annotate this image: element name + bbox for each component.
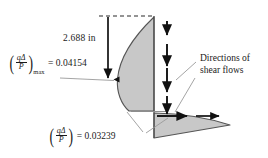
max-shear-marker (114, 77, 120, 83)
fraction-q-delta-over-p-flange: qΔ P (56, 127, 67, 145)
leader-line-max-shear (60, 78, 114, 81)
flange-shear-value: = 0.03239 (77, 131, 116, 141)
leader-line-directions-b (175, 78, 195, 112)
subscript-max: max (33, 68, 44, 75)
max-shear-label: ( qΔ P ) max = 0.04154 (8, 54, 87, 73)
fraction-q-delta-over-p-max: qΔ P (16, 54, 27, 72)
leader-line-flange-a (127, 112, 143, 132)
upper-flange-shape (117, 17, 154, 111)
fraction-numerator-max: qΔ (16, 54, 27, 62)
fraction-denominator-max: P (18, 63, 25, 71)
leader-line-directions-a (176, 62, 196, 80)
max-shear-value: = 0.04154 (48, 58, 87, 68)
diagram-canvas (0, 0, 268, 158)
directions-of-shear-flows-label: Directions of shear flows (200, 53, 262, 76)
flange-shear-label: ( qΔ P ) = 0.03239 (48, 127, 115, 146)
shear-flow-diagram: 2.688 in ( qΔ P ) max = 0.04154 ( qΔ P )… (0, 0, 268, 158)
fraction-denominator-flange: P (58, 136, 65, 144)
dimension-label: 2.688 in (63, 33, 96, 43)
fraction-numerator-flange: qΔ (56, 127, 67, 135)
